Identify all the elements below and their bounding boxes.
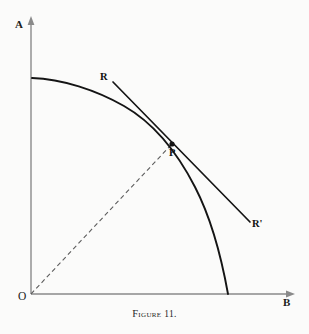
indifference-curve: [32, 78, 228, 294]
figure-drawing: [0, 0, 309, 334]
tangent-line: [113, 82, 250, 222]
axis-label-b: B: [283, 297, 291, 308]
figure-caption-word: Figure: [132, 308, 161, 319]
vertical-axis-arrow-icon: [28, 16, 35, 25]
axis-label-a: A: [15, 19, 23, 30]
figure-caption: Figure 11.: [0, 309, 309, 320]
ray-label-r: R: [100, 72, 108, 83]
ray-label-r-prime: R': [252, 219, 263, 230]
figure-container: A B O P R R' Figure 11.: [0, 0, 309, 334]
point-p-marker: [169, 141, 174, 146]
figure-caption-number: 11.: [164, 309, 177, 319]
origin-label: O: [18, 291, 27, 303]
radius-vector-line: [31, 145, 171, 294]
point-label-p: P: [169, 148, 175, 159]
